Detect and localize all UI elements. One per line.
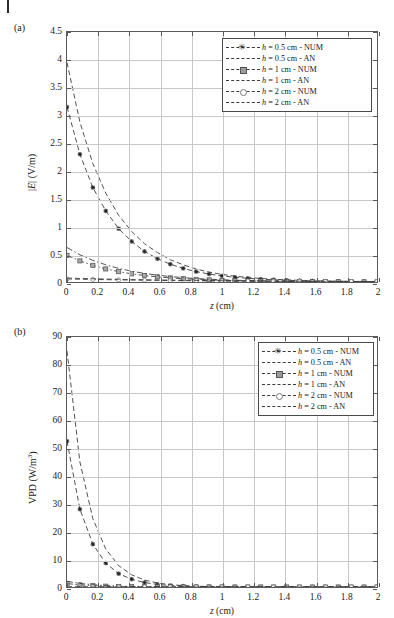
legend-line-sample xyxy=(262,402,296,412)
marker-star xyxy=(91,185,96,190)
x-tick-label: 0.8 xyxy=(185,287,197,297)
gridline-vertical xyxy=(161,32,162,282)
gridline-horizontal xyxy=(67,172,377,173)
x-tick-label: 1 xyxy=(220,287,225,297)
legend-label: h = 0.5 cm - AN xyxy=(262,54,315,63)
marker-square xyxy=(91,263,95,267)
y-tick-right xyxy=(373,32,377,33)
gridline-vertical xyxy=(192,337,193,587)
marker-star xyxy=(155,256,160,261)
y-tick xyxy=(67,228,71,229)
x-tick-top xyxy=(161,337,162,341)
legend-label: h = 1 cm - AN xyxy=(262,76,309,85)
subplot-b: (b) 00.20.40.60.811.21.41.61.82010203040… xyxy=(0,314,394,618)
gridline-horizontal xyxy=(67,449,377,450)
y-tick-label: 10 xyxy=(36,555,62,565)
y-tick-label: 40 xyxy=(36,471,62,481)
marker-star xyxy=(78,507,83,512)
x-tick-top xyxy=(161,32,162,36)
gridline-vertical xyxy=(129,337,130,587)
legend-item: h = 2 cm - NUM xyxy=(226,86,367,97)
legend-item: h = 1 cm - NUM xyxy=(262,368,369,379)
marker-star xyxy=(142,580,147,585)
legend-label: h = 0.5 cm - NUM xyxy=(298,347,359,356)
legend-line-sample xyxy=(226,87,260,97)
x-tick-label: 0.4 xyxy=(122,287,134,297)
legend-item: h = 1 cm - NUM xyxy=(226,64,367,75)
gridline-horizontal xyxy=(67,561,377,562)
legend-item: ✳h = 0.5 cm - NUM xyxy=(262,346,369,357)
x-tick xyxy=(98,278,99,282)
x-tick-label: 1.8 xyxy=(341,287,353,297)
legend-item: h = 0.5 cm - AN xyxy=(262,357,369,368)
x-tick-top xyxy=(192,32,193,36)
x-tick xyxy=(254,278,255,282)
y-tick xyxy=(67,365,71,366)
panel-label-a: (a) xyxy=(14,22,25,33)
legend-label: h = 2 cm - AN xyxy=(262,98,309,107)
y-tick-label: 2 xyxy=(36,166,62,176)
x-tick-label: 2 xyxy=(376,287,381,297)
y-tick xyxy=(67,116,71,117)
x-tick-label: 0 xyxy=(64,592,69,602)
y-tick-right xyxy=(373,60,377,61)
y-tick-label: 20 xyxy=(36,527,62,537)
legend-label: h = 1 cm - AN xyxy=(298,380,345,389)
subplot-a: (a) 00.20.40.60.811.21.41.61.8200.511.52… xyxy=(0,14,394,314)
y-tick xyxy=(67,200,71,201)
marker-square xyxy=(78,259,82,263)
y-tick xyxy=(67,505,71,506)
y-tick xyxy=(67,256,71,257)
x-tick-top xyxy=(223,337,224,341)
x-tick xyxy=(379,583,380,587)
x-tick xyxy=(285,278,286,282)
legend-item: ✳h = 0.5 cm - NUM xyxy=(226,42,367,53)
y-tick xyxy=(67,88,71,89)
y-tick-label: 30 xyxy=(36,499,62,509)
x-tick-top xyxy=(98,32,99,36)
x-tick xyxy=(379,278,380,282)
marker-star xyxy=(168,262,173,267)
legend-line-sample: ✳ xyxy=(262,347,296,357)
x-tick-top xyxy=(254,32,255,36)
legend-item: h = 2 cm - AN xyxy=(226,97,367,108)
figure-two-panel-plot: (a) 00.20.40.60.811.21.41.61.8200.511.52… xyxy=(0,0,394,618)
gridline-vertical xyxy=(98,32,99,282)
x-tick-label: 1.8 xyxy=(341,592,353,602)
gridline-vertical xyxy=(223,337,224,587)
x-tick-label: 0 xyxy=(64,287,69,297)
x-tick xyxy=(161,583,162,587)
y-tick-label: 1.5 xyxy=(36,194,62,204)
legend-line-sample xyxy=(262,380,296,390)
x-tick xyxy=(67,278,68,282)
legend-label: h = 0.5 cm - AN xyxy=(298,358,351,367)
gridline-vertical xyxy=(161,337,162,587)
x-tick xyxy=(67,583,68,587)
x-tick-label: 1.2 xyxy=(247,592,259,602)
gridline-vertical xyxy=(98,337,99,587)
y-tick-right xyxy=(373,116,377,117)
y-tick xyxy=(67,337,71,338)
y-tick xyxy=(67,561,71,562)
legend-label: h = 2 cm - NUM xyxy=(262,87,317,96)
x-tick-label: 1.6 xyxy=(310,592,322,602)
x-tick-top xyxy=(285,32,286,36)
x-tick xyxy=(317,278,318,282)
marker-star xyxy=(67,105,69,110)
gridline-horizontal xyxy=(67,256,377,257)
x-tick-top xyxy=(98,337,99,341)
x-tick xyxy=(129,583,130,587)
y-tick xyxy=(67,172,71,173)
legend-marker-circle xyxy=(240,89,247,96)
x-tick-label: 0.2 xyxy=(91,287,103,297)
legend-marker-square xyxy=(276,371,283,378)
marker-square xyxy=(117,270,121,274)
y-tick-label: 70 xyxy=(36,387,62,397)
legend-item: h = 0.5 cm - AN xyxy=(226,53,367,64)
y-tick-right xyxy=(373,337,377,338)
marker-circle xyxy=(272,279,276,282)
y-tick-right xyxy=(373,200,377,201)
legend-a: ✳h = 0.5 cm - NUMh = 0.5 cm - ANh = 1 cm… xyxy=(222,38,372,112)
y-tick-label: 4.5 xyxy=(36,26,62,36)
y-tick xyxy=(67,589,71,590)
